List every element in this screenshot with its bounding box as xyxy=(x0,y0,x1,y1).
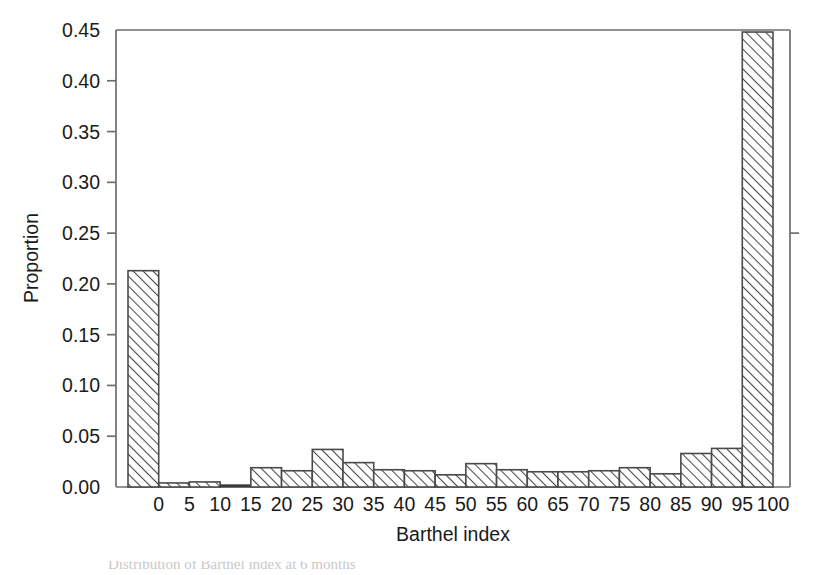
chart-page: 0.000.050.100.150.200.250.300.350.400.45… xyxy=(0,0,820,575)
x-tick-label: 0 xyxy=(153,493,164,515)
histogram-bar xyxy=(681,453,712,487)
x-tick-label: 90 xyxy=(701,493,723,515)
histogram-bar xyxy=(404,471,435,487)
x-tick-label: 10 xyxy=(209,493,231,515)
x-tick-label: 85 xyxy=(670,493,692,515)
x-tick-label: 100 xyxy=(757,493,790,515)
histogram-bar xyxy=(589,471,620,487)
histogram-bar xyxy=(128,271,159,487)
plot-frame xyxy=(116,30,790,487)
x-tick-label: 45 xyxy=(424,493,446,515)
y-tick-label: 0.45 xyxy=(62,19,100,41)
histogram-bar xyxy=(312,449,343,487)
y-tick-label: 0.20 xyxy=(62,273,100,295)
x-tick-label: 30 xyxy=(332,493,354,515)
x-tick-label: 35 xyxy=(363,493,385,515)
y-axis-tick-labels: 0.000.050.100.150.200.250.300.350.400.45 xyxy=(62,19,100,498)
x-tick-label: 50 xyxy=(455,493,477,515)
histogram-bar xyxy=(189,482,220,487)
x-tick-label: 65 xyxy=(547,493,569,515)
y-axis-title: Proportion xyxy=(20,213,42,303)
x-tick-label: 15 xyxy=(240,493,262,515)
x-tick-label: 55 xyxy=(486,493,508,515)
y-tick-label: 0.10 xyxy=(62,374,100,396)
x-tick-label: 75 xyxy=(609,493,631,515)
x-tick-label: 80 xyxy=(639,493,661,515)
bar-series xyxy=(128,32,773,487)
histogram-bar xyxy=(497,470,528,487)
y-tick-label: 0.05 xyxy=(62,425,100,447)
y-tick-label: 0.00 xyxy=(62,476,100,498)
histogram-bar xyxy=(251,468,282,487)
x-tick-label: 95 xyxy=(731,493,753,515)
histogram-bar xyxy=(435,475,466,487)
histogram-bar xyxy=(220,485,251,487)
x-axis-tick-labels: 0510152025303540455055606570758085909510… xyxy=(153,493,789,515)
histogram-bar xyxy=(558,472,589,487)
caption-strip: Distribution of Barthel index at 6 month… xyxy=(0,561,820,575)
x-tick-label: 25 xyxy=(301,493,323,515)
y-axis-ticks xyxy=(107,81,116,436)
histogram-bar xyxy=(650,474,681,487)
histogram-chart: 0.000.050.100.150.200.250.300.350.400.45… xyxy=(0,0,820,575)
histogram-bar xyxy=(527,472,558,487)
histogram-bar xyxy=(374,470,405,487)
y-tick-label: 0.35 xyxy=(62,121,100,143)
x-tick-label: 5 xyxy=(184,493,195,515)
histogram-bar xyxy=(619,468,650,487)
histogram-bar xyxy=(343,463,374,487)
x-tick-label: 40 xyxy=(394,493,416,515)
caption-partial-text: Distribution of Barthel index at 6 month… xyxy=(108,561,808,573)
x-tick-label: 20 xyxy=(271,493,293,515)
histogram-bar xyxy=(742,32,773,487)
y-tick-label: 0.25 xyxy=(62,222,100,244)
x-tick-label: 70 xyxy=(578,493,600,515)
y-tick-label: 0.30 xyxy=(62,171,100,193)
chart-svg: 0.000.050.100.150.200.250.300.350.400.45… xyxy=(0,0,820,575)
histogram-bar xyxy=(282,471,313,487)
x-tick-label: 60 xyxy=(516,493,538,515)
x-axis-title: Barthel index xyxy=(396,523,510,545)
histogram-bar xyxy=(712,448,743,487)
y-tick-label: 0.40 xyxy=(62,70,100,92)
histogram-bar xyxy=(159,483,190,487)
y-tick-label: 0.15 xyxy=(62,324,100,346)
histogram-bar xyxy=(466,464,497,487)
